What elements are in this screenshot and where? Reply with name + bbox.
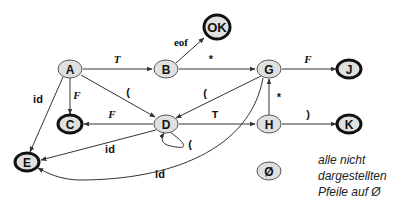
legend-line-3: Pfeile auf Ø — [318, 184, 387, 200]
edge-label-d-to-h: T — [212, 109, 219, 121]
edge-label-d-to-e: id — [105, 143, 115, 155]
edge-label-h-to-k: ) — [306, 108, 310, 120]
edge-label-h-to-g: * — [277, 91, 282, 103]
edge-label-b-to-ok: eof — [174, 36, 188, 48]
node-label-c: C — [66, 118, 75, 132]
edge-a-to-d — [81, 75, 155, 117]
node-label-j: J — [346, 63, 353, 77]
edge-label-a-to-e: id — [33, 93, 43, 105]
node-a: A — [58, 60, 82, 78]
edge-label-g-to-e: id — [155, 168, 165, 180]
node-label-a: A — [66, 63, 75, 77]
legend-line-2: dargestellten — [318, 168, 387, 184]
node-d: D — [154, 115, 178, 133]
node-label-k: K — [345, 118, 354, 132]
edge-label-d-to-c: F — [107, 108, 116, 120]
node-label-ok: OK — [207, 20, 227, 35]
edge-labels: Teof*FF(id(FT(id*)id — [33, 36, 312, 180]
edge-label-a-to-b: T — [114, 53, 122, 65]
node-label-h: H — [265, 118, 274, 132]
edge-d-to-d — [162, 132, 184, 147]
node-k: K — [337, 115, 361, 133]
node-label-d: D — [162, 118, 171, 132]
edge-label-a-to-d: ( — [126, 86, 130, 98]
edge-g-to-d — [176, 76, 261, 118]
node-label-e: E — [23, 156, 31, 170]
node-e: E — [15, 153, 39, 171]
node-label-g: G — [264, 63, 273, 77]
node-ok: OK — [204, 15, 230, 39]
legend: alle nicht dargestellten Pfeile auf Ø — [318, 152, 387, 200]
node-g: G — [257, 60, 281, 78]
edge-label-g-to-d: ( — [203, 87, 207, 99]
node-h: H — [257, 115, 281, 133]
edge-a-to-e — [30, 77, 63, 152]
edge-d-to-e — [41, 130, 156, 160]
node-empty: Ø — [257, 162, 281, 180]
legend-line-1: alle nicht — [318, 152, 387, 168]
edge-label-b-to-g: * — [209, 53, 214, 65]
edge-label-g-to-j: F — [303, 53, 312, 65]
edge-label-a-to-c: F — [72, 89, 81, 101]
node-label-empty: Ø — [264, 165, 273, 179]
edges — [30, 38, 336, 180]
node-c: C — [58, 115, 82, 133]
node-b: B — [154, 60, 178, 78]
edge-label-d-to-d: ( — [188, 138, 192, 150]
node-label-b: B — [162, 63, 171, 77]
node-j: J — [337, 60, 361, 78]
